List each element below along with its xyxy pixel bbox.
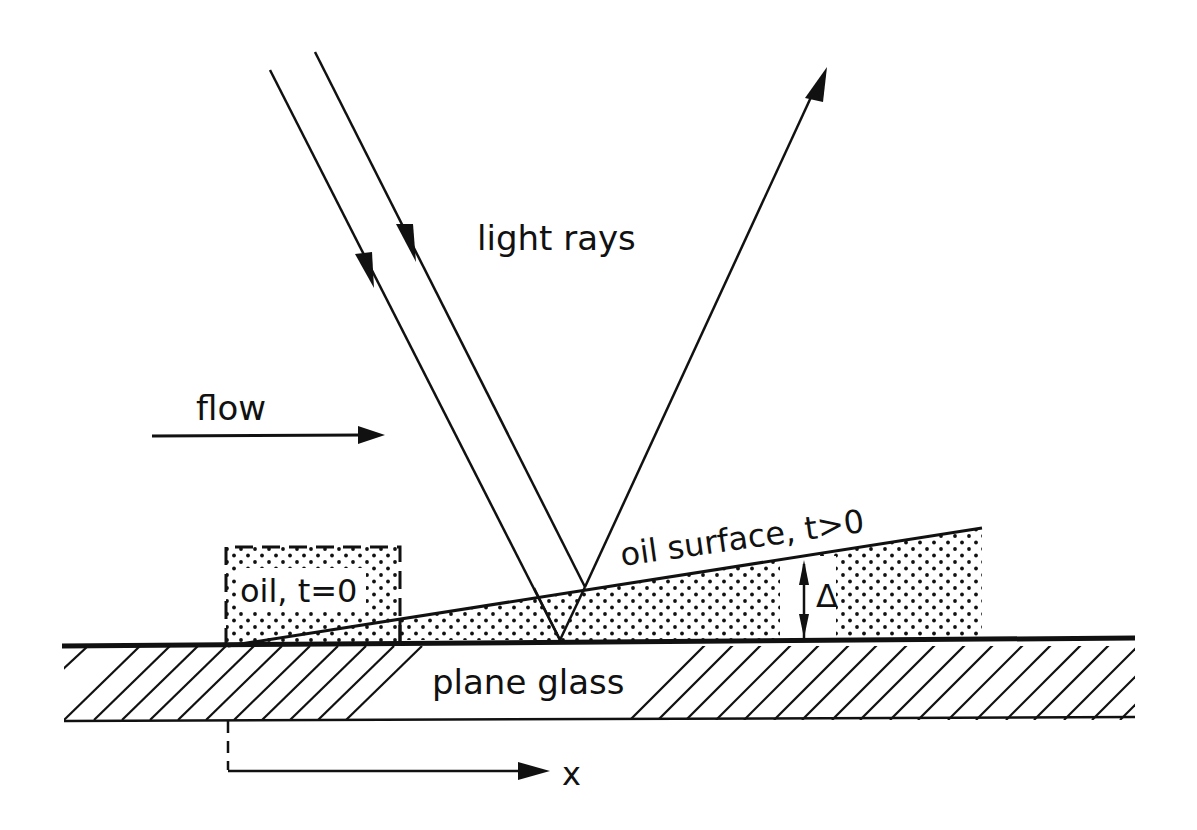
light-rays-label: light rays (477, 218, 636, 258)
flow-arrow (152, 426, 385, 444)
x-axis-label: x (562, 755, 581, 793)
arrow-right-icon (518, 762, 550, 780)
diagram-canvas: light rays flow oil, t=0 oil surface, t>… (0, 0, 1197, 830)
delta-label: Δ (816, 577, 838, 615)
plane-glass-label: plane glass (432, 662, 624, 702)
flow-label: flow (196, 388, 266, 428)
arrow-right-icon (358, 426, 385, 444)
arrow-down-icon (396, 224, 416, 262)
arrow-up-icon (805, 67, 827, 102)
oil-initial-label: oil, t=0 (240, 572, 357, 610)
arrow-down-icon (355, 252, 374, 288)
x-axis (228, 721, 550, 780)
incident-ray-2 (315, 52, 585, 587)
